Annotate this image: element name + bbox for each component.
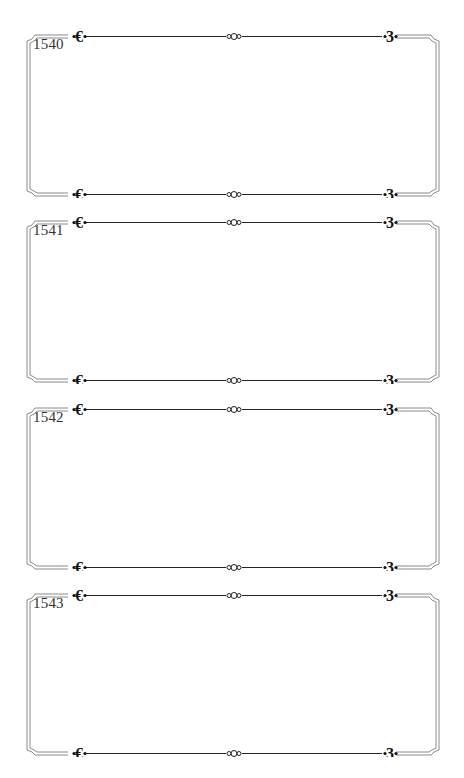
ornamental-border: € € 3 3 [0,401,464,571]
svg-text:3: 3 [386,214,394,231]
svg-text:3: 3 [386,745,394,757]
svg-text:3: 3 [386,372,394,384]
svg-text:3: 3 [386,28,394,45]
svg-text:€: € [75,587,83,604]
svg-text:€: € [75,401,83,418]
ornamental-border: € € 3 3 [0,28,464,198]
svg-text:3: 3 [386,401,394,418]
svg-text:€: € [75,28,83,45]
year-frame-1540: € € 3 3 1540 [0,28,464,198]
svg-text:€: € [75,214,83,231]
year-label: 1543 [33,595,64,612]
year-label: 1542 [33,409,64,426]
svg-text:€: € [75,372,83,384]
year-label: 1541 [33,222,64,239]
year-label: 1540 [33,36,64,53]
year-frame-1543: € € 3 3 1543 [0,587,464,757]
svg-text:3: 3 [386,559,394,571]
svg-text:3: 3 [386,587,394,604]
ornamental-border: € € 3 3 [0,587,464,757]
svg-text:3: 3 [386,186,394,198]
svg-text:€: € [75,186,83,198]
ornamental-border: € € 3 3 [0,214,464,384]
year-frame-1541: € € 3 3 1541 [0,214,464,384]
svg-text:€: € [75,559,83,571]
year-frame-1542: € € 3 3 1542 [0,401,464,571]
svg-text:€: € [75,745,83,757]
